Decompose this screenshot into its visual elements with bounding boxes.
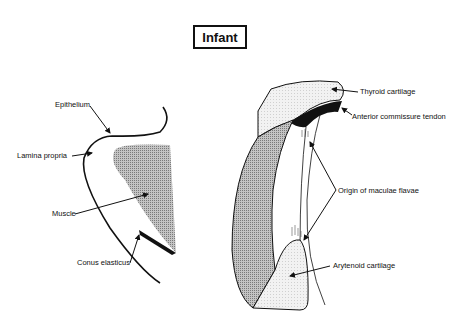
label-arytenoid-cartilage: Arytenoid cartilage	[333, 262, 395, 270]
label-anterior-commissure-tendon: Anterior commissure tendon	[352, 113, 446, 121]
right-larynx-section	[232, 81, 358, 310]
label-origin-of-maculae-flavae: Origin of maculae flavae	[338, 187, 419, 195]
label-epithelium: Epithelium	[55, 101, 90, 109]
label-conus-elasticus: Conus elasticus	[77, 259, 130, 267]
left-vocal-fold	[72, 106, 176, 283]
label-lamina-propria: Lamina propria	[17, 152, 67, 160]
anatomy-drawing	[0, 0, 457, 322]
label-thyroid-cartilage: Thyroid cartilage	[360, 88, 415, 96]
label-muscle: Muscle	[52, 210, 76, 218]
